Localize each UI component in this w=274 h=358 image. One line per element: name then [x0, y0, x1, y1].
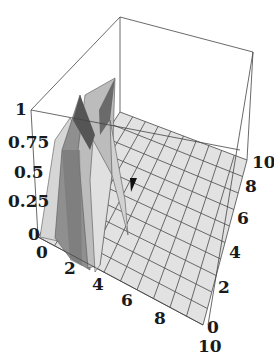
- surface-plot: 1 0.75 0.5 0.25 0 0 2 4 6 8 10 0 2 4 6 8…: [0, 0, 274, 358]
- x-tick-10: 10: [198, 336, 222, 356]
- y-tick-8: 8: [245, 176, 257, 196]
- z-tick-0.5: 0.5: [14, 162, 44, 182]
- x-tick-0: 0: [36, 242, 48, 262]
- y-tick-0: 0: [207, 317, 219, 337]
- z-tick-1: 1: [15, 99, 27, 119]
- x-tick-6: 6: [121, 290, 133, 310]
- x-tick-4: 4: [92, 274, 104, 294]
- y-tick-6: 6: [237, 208, 249, 228]
- y-tick-4: 4: [229, 242, 241, 262]
- y-tick-10: 10: [252, 152, 274, 172]
- x-tick-8: 8: [154, 308, 166, 328]
- z-tick-0.75: 0.75: [8, 132, 49, 152]
- z-tick-0: 0: [28, 224, 40, 244]
- x-tick-2: 2: [64, 258, 76, 278]
- y-tick-2: 2: [218, 277, 230, 297]
- z-tick-0.25: 0.25: [8, 191, 49, 211]
